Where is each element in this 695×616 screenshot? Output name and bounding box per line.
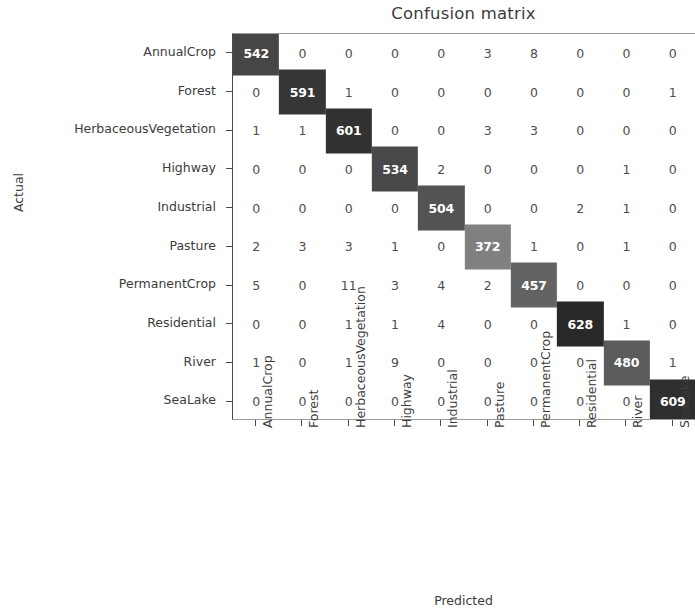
matrix-cell: 0 bbox=[279, 189, 325, 228]
matrix-cell: 1 bbox=[326, 73, 372, 112]
matrix-cell: 534 bbox=[372, 150, 418, 189]
matrix-cell-value: 0 bbox=[437, 239, 445, 254]
matrix-cell: 0 bbox=[650, 305, 695, 344]
matrix-cell-value: 0 bbox=[576, 394, 584, 409]
matrix-cell: 0 bbox=[279, 305, 325, 344]
matrix-cell-value: 1 bbox=[669, 355, 677, 370]
matrix-cell-value: 1 bbox=[345, 317, 353, 332]
x-tick-mark-7 bbox=[579, 420, 580, 426]
matrix-cell-value: 0 bbox=[484, 355, 492, 370]
y-tick-label-1: Forest bbox=[178, 72, 216, 111]
matrix-cell-value: 0 bbox=[669, 46, 677, 61]
matrix-cell: 1 bbox=[372, 227, 418, 266]
x-tick-label-text-5: Pasture bbox=[492, 381, 507, 428]
matrix-cell-value: 5 bbox=[252, 278, 260, 293]
matrix-cell-value: 3 bbox=[298, 239, 306, 254]
y-tick-label-3: Highway bbox=[162, 149, 216, 188]
matrix-cell-value: 1 bbox=[623, 239, 631, 254]
matrix-cell: 0 bbox=[511, 150, 557, 189]
matrix-cell: 0 bbox=[650, 34, 695, 73]
matrix-cell: 4 bbox=[418, 305, 464, 344]
matrix-cell: 0 bbox=[603, 111, 649, 150]
matrix-cell: 0 bbox=[557, 266, 603, 305]
matrix-cell-value: 0 bbox=[530, 85, 538, 100]
matrix-cell: 1 bbox=[511, 227, 557, 266]
matrix-cell-value: 480 bbox=[614, 355, 640, 370]
matrix-cell-value: 2 bbox=[484, 278, 492, 293]
matrix-cell: 0 bbox=[557, 150, 603, 189]
matrix-cell: 0 bbox=[279, 266, 325, 305]
matrix-cell-value: 0 bbox=[576, 123, 584, 138]
matrix-cell-value: 0 bbox=[298, 278, 306, 293]
matrix-cell: 0 bbox=[557, 227, 603, 266]
matrix-cell-value: 0 bbox=[576, 355, 584, 370]
matrix-cell: 0 bbox=[372, 73, 418, 112]
matrix-cell: 601 bbox=[326, 111, 372, 150]
matrix-cell-value: 0 bbox=[252, 201, 260, 216]
matrix-cell: 457 bbox=[511, 266, 557, 305]
matrix-cell-value: 1 bbox=[298, 123, 306, 138]
matrix-cell-value: 0 bbox=[252, 162, 260, 177]
matrix-cell: 3 bbox=[279, 227, 325, 266]
matrix-cell-value: 0 bbox=[252, 317, 260, 332]
matrix-cell-value: 0 bbox=[576, 85, 584, 100]
matrix-cell: 1 bbox=[603, 227, 649, 266]
x-tick-mark-1 bbox=[301, 420, 302, 426]
matrix-cell-value: 0 bbox=[576, 46, 584, 61]
matrix-cell: 0 bbox=[603, 266, 649, 305]
matrix-cell: 0 bbox=[511, 189, 557, 228]
matrix-cell-value: 0 bbox=[437, 46, 445, 61]
matrix-cell: 0 bbox=[279, 34, 325, 73]
matrix-cell-value: 601 bbox=[336, 123, 362, 138]
matrix-cell: 2 bbox=[233, 227, 279, 266]
matrix-cell: 3 bbox=[464, 34, 510, 73]
matrix-cell-value: 0 bbox=[298, 46, 306, 61]
matrix-cell-value: 0 bbox=[484, 162, 492, 177]
matrix-cell: 628 bbox=[557, 305, 603, 344]
matrix-cell-value: 0 bbox=[484, 317, 492, 332]
x-tick-label-text-6: PermanentCrop bbox=[538, 331, 553, 428]
matrix-cell-value: 0 bbox=[298, 355, 306, 370]
matrix-cell-value: 9 bbox=[391, 355, 399, 370]
matrix-cell-value: 0 bbox=[669, 317, 677, 332]
x-tick-label-text-1: Forest bbox=[306, 390, 321, 428]
matrix-cell-value: 0 bbox=[437, 123, 445, 138]
page-title: Confusion matrix bbox=[232, 4, 695, 23]
matrix-cell-value: 372 bbox=[475, 239, 501, 254]
matrix-cell-value: 4 bbox=[437, 278, 445, 293]
matrix-cell: 0 bbox=[279, 150, 325, 189]
matrix-cell: 3 bbox=[464, 111, 510, 150]
matrix-cell: 0 bbox=[279, 344, 325, 383]
matrix-cell-value: 0 bbox=[530, 317, 538, 332]
x-tick-mark-8 bbox=[625, 420, 626, 426]
matrix-cell-value: 0 bbox=[623, 85, 631, 100]
matrix-cell-value: 609 bbox=[660, 394, 686, 409]
y-tick-label-2: HerbaceousVegetation bbox=[74, 110, 216, 149]
matrix-cell: 1 bbox=[603, 305, 649, 344]
matrix-cell: 0 bbox=[603, 34, 649, 73]
matrix-cell: 0 bbox=[233, 189, 279, 228]
x-tick-mark-3 bbox=[394, 420, 395, 426]
matrix-cell-value: 0 bbox=[437, 394, 445, 409]
matrix-cell: 480 bbox=[603, 344, 649, 383]
matrix-cell-value: 3 bbox=[484, 123, 492, 138]
matrix-cell: 504 bbox=[418, 189, 464, 228]
matrix-cell: 1 bbox=[603, 150, 649, 189]
matrix-cell: 0 bbox=[233, 305, 279, 344]
matrix-cell: 0 bbox=[511, 73, 557, 112]
matrix-cell: 0 bbox=[557, 111, 603, 150]
matrix-cell: 2 bbox=[557, 189, 603, 228]
matrix-cell: 3 bbox=[326, 227, 372, 266]
matrix-cell-value: 11 bbox=[341, 278, 357, 293]
matrix-cell: 542 bbox=[233, 34, 279, 73]
matrix-cell-value: 0 bbox=[391, 201, 399, 216]
x-tick-label-text-8: River bbox=[630, 396, 645, 428]
y-tick-label-5: Pasture bbox=[169, 227, 216, 266]
matrix-cell: 2 bbox=[464, 266, 510, 305]
y-tick-label-6: PermanentCrop bbox=[119, 265, 216, 304]
matrix-cell: 1 bbox=[372, 305, 418, 344]
matrix-cell: 0 bbox=[464, 344, 510, 383]
matrix-cell-value: 8 bbox=[530, 46, 538, 61]
matrix-cell: 8 bbox=[511, 34, 557, 73]
matrix-cell-value: 0 bbox=[298, 162, 306, 177]
